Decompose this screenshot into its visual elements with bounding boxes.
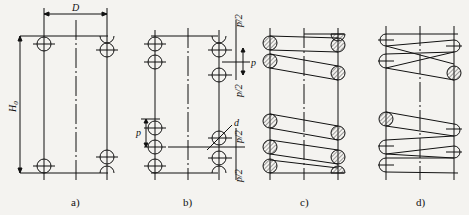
panel-d — [378, 26, 462, 180]
panel-label-a: a) — [71, 196, 80, 209]
dim-p2-bottom: p/2 — [233, 169, 244, 183]
dim-d: d — [234, 117, 240, 128]
dim-p2-mid: p/2 — [233, 84, 244, 98]
panel-label-c: c) — [300, 196, 309, 209]
panel-c — [263, 28, 345, 180]
dim-p-right: p — [250, 57, 256, 68]
panel-label-b: b) — [183, 196, 193, 209]
dim-p2-low: p/2 — [233, 130, 244, 144]
dim-p-left: p — [135, 127, 141, 138]
dim-H0: H0 — [7, 101, 20, 113]
dim-p2-top: p/2 — [233, 14, 244, 28]
panel-a — [18, 8, 118, 180]
spring-drawing: D H0 p/2 p p/2 p/2 d p/2 p a) b) c) d) — [0, 0, 469, 215]
dim-D: D — [71, 2, 80, 13]
panel-label-d: d) — [416, 196, 426, 209]
panel-b — [141, 20, 250, 180]
